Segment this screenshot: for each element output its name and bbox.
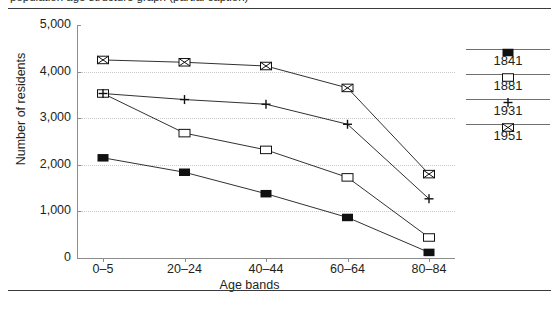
data-point-filled-square [98,154,109,162]
data-point-filled-square [342,214,353,222]
data-point-crossed-square [98,56,109,64]
data-point-open-square [424,234,435,242]
legend-label: 1881 [466,78,550,93]
legend-label: 1841 [466,53,550,68]
legend-item-1951[interactable]: 1951 [466,119,554,144]
line-chart: Number of residents Age bands 5,0004,000… [0,10,460,285]
series-line-1881 [103,94,429,238]
data-point-crossed-square [424,170,435,178]
data-point-plus [262,100,271,109]
data-point-crossed-square [342,84,353,92]
data-point-filled-square [179,169,190,177]
chart-legend: 1841188119311951 [466,44,554,144]
data-point-open-square [179,129,190,137]
data-point-filled-square [261,190,272,198]
series-line-1841 [103,158,429,253]
legend-item-1841[interactable]: 1841 [466,44,554,69]
top-divider [8,8,551,9]
data-point-filled-square [424,249,435,257]
data-point-open-square [342,174,353,182]
bottom-divider [8,290,551,291]
legend-label: 1931 [466,103,550,118]
chart-page: population age structure graph (partial … [0,0,559,309]
legend-item-1881[interactable]: 1881 [466,69,554,94]
series-layer [0,10,460,285]
data-point-open-square [261,146,272,154]
legend-item-1931[interactable]: 1931 [466,94,554,119]
data-point-crossed-square [179,59,190,67]
legend-label: 1951 [466,128,550,143]
data-point-plus [180,95,189,104]
cut-off-caption: population age structure graph (partial … [10,0,310,4]
data-point-crossed-square [261,62,272,69]
